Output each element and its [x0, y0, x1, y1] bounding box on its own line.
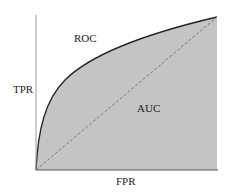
roc-diagram: ROC AUC TPR FPR — [0, 0, 229, 192]
auc-label: AUC — [137, 102, 160, 114]
x-axis-label: FPR — [116, 175, 136, 187]
y-axis-label: TPR — [13, 83, 34, 95]
roc-label: ROC — [74, 32, 97, 44]
